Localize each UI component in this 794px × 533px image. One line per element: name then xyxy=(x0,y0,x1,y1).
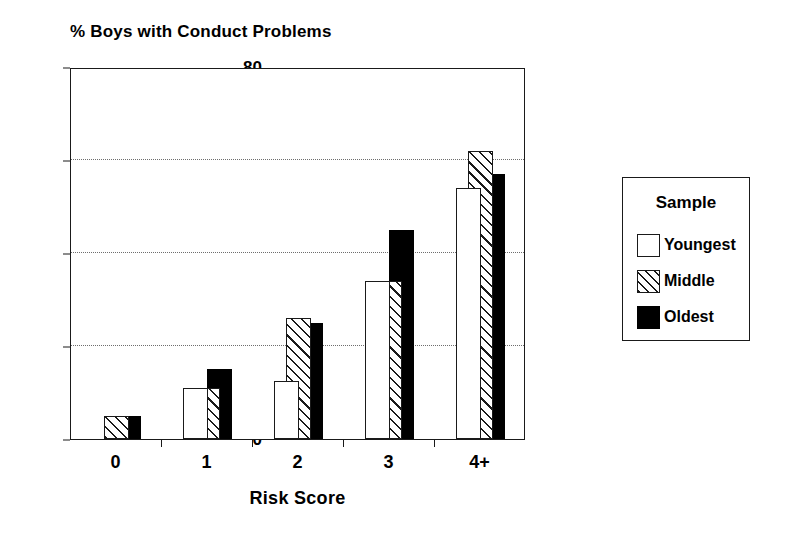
y-axis-tick-mark xyxy=(63,440,70,441)
x-axis-tick-label: 2 xyxy=(292,452,302,473)
legend-item-label: Middle xyxy=(664,272,715,290)
x-axis-tick-label: 0 xyxy=(110,452,120,473)
legend-items: YoungestMiddleOldest xyxy=(637,227,743,335)
legend-item-label: Youngest xyxy=(664,236,736,254)
y-axis-tick-mark xyxy=(63,68,70,69)
plot-inner xyxy=(71,69,524,439)
x-axis-tick-mark xyxy=(343,440,344,447)
bar-middle-0 xyxy=(104,416,129,439)
chart-figure: % Boys with Conduct Problems 020406080 0… xyxy=(0,0,794,533)
legend: Sample YoungestMiddleOldest xyxy=(622,177,750,341)
legend-item-middle[interactable]: Middle xyxy=(637,263,743,299)
y-axis-tick-mark xyxy=(63,161,70,162)
bar-youngest-2 xyxy=(274,381,299,439)
x-axis-tick-label: 3 xyxy=(383,452,393,473)
legend-item-oldest[interactable]: Oldest xyxy=(637,299,743,335)
hatched-square-icon xyxy=(637,270,660,293)
x-axis-tick-label: 1 xyxy=(201,452,211,473)
y-axis-tick-mark xyxy=(63,347,70,348)
black-square-icon xyxy=(637,306,660,329)
x-axis-tick-mark xyxy=(161,440,162,447)
legend-title: Sample xyxy=(623,193,749,213)
gridline xyxy=(71,159,524,160)
bar-youngest-1 xyxy=(183,388,208,439)
x-axis-title: Risk Score xyxy=(70,488,525,509)
x-axis-tick-label: 4+ xyxy=(469,452,490,473)
y-axis-tick-mark xyxy=(63,254,70,255)
white-square-icon xyxy=(637,234,660,257)
chart-title: % Boys with Conduct Problems xyxy=(70,22,332,42)
bar-youngest-4plus xyxy=(456,188,481,439)
x-axis-tick-mark xyxy=(252,440,253,447)
plot-area xyxy=(70,68,525,440)
legend-item-label: Oldest xyxy=(664,308,714,326)
bar-youngest-3 xyxy=(365,281,390,439)
x-axis-tick-mark xyxy=(434,440,435,447)
legend-item-youngest[interactable]: Youngest xyxy=(637,227,743,263)
